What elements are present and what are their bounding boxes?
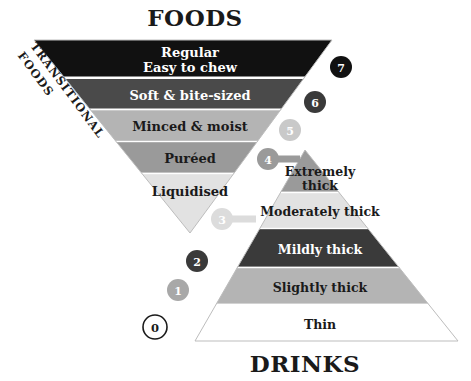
drinks-band-level-1 [0,268,471,305]
drinks-label-level-2: Mildly thick [278,242,363,257]
iddsi-framework-diagram: Regular Easy to chew Soft & bite-sized M… [0,0,471,381]
foods-heading: FOODS [147,4,242,31]
drinks-separator-2-1 [0,267,471,269]
level-badge-4-number: 4 [264,154,272,167]
level-badge-7-number: 7 [337,62,345,75]
iddsi-svg-canvas: Regular Easy to chew Soft & bite-sized M… [0,0,471,381]
foods-separator-5-4 [0,141,471,142]
drinks-separator-1-0 [0,304,471,306]
level-badge-0[interactable]: 0 [143,315,167,339]
level-badge-3-number: 3 [218,214,226,227]
foods-separator-4-3 [0,173,471,175]
foods-label-level-7-line1: Regular [161,45,219,60]
foods-label-level-6: Soft & bite-sized [129,88,250,103]
foods-separator-6-5 [0,109,471,111]
level-badge-5[interactable]: 5 [279,119,301,141]
drinks-label-level-0: Thin [304,317,336,332]
level-badge-5-number: 5 [286,125,294,138]
drinks-triangle-bands [0,150,471,342]
drinks-band-level-0 [0,305,471,342]
foods-band-level-3 [0,174,471,234]
drinks-label-level-4-line2: thick [302,178,338,193]
level-badge-7[interactable]: 7 [330,56,352,78]
drinks-label-level-3: Moderately thick [260,204,380,219]
level-badge-3[interactable]: 3 [211,208,233,230]
level-badge-6[interactable]: 6 [304,91,326,113]
drinks-separator-4-3 [0,192,471,194]
drinks-heading: DRINKS [250,350,360,377]
level-badge-0-number: 0 [151,321,159,335]
level-badge-4[interactable]: 4 [257,148,279,170]
foods-label-level-4: Puréed [164,151,216,166]
level-badge-6-number: 6 [311,97,319,110]
drinks-separator-3-2 [0,228,471,229]
foods-separator-7-6 [0,77,471,80]
drinks-label-level-4-line1: Extremely [285,164,356,179]
level-badge-1[interactable]: 1 [167,279,189,301]
foods-label-level-5: Minced & moist [132,119,248,134]
level-badge-1-number: 1 [174,285,182,298]
drinks-band-level-3 [0,193,471,229]
drinks-band-level-2 [0,229,471,268]
foods-label-level-3: Liquidised [152,184,228,199]
drinks-label-level-1: Slightly thick [273,280,368,295]
level-badge-2[interactable]: 2 [186,250,208,272]
foods-band-level-4 [0,142,471,174]
foods-label-level-7-line2: Easy to chew [143,60,238,75]
level-badge-2-number: 2 [193,256,201,269]
